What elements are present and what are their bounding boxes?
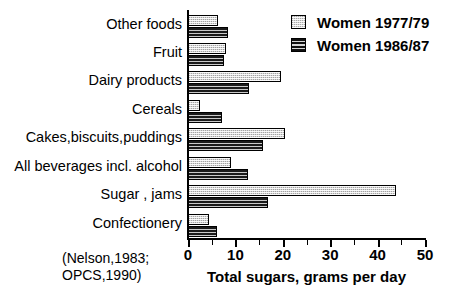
bar-women-1977-79 xyxy=(188,157,231,168)
x-tick-label-0: 0 xyxy=(184,246,192,263)
legend: Women 1977/79 Women 1986/87 xyxy=(291,12,451,58)
bar-women-1986-87 xyxy=(188,55,224,66)
bar-women-1986-87 xyxy=(188,197,268,208)
category-label-all-beverages: All beverages incl. alcohol xyxy=(5,158,187,174)
x-tick-label-40: 40 xyxy=(369,246,386,263)
light-dotted-swatch xyxy=(291,15,306,29)
bar-women-1986-87 xyxy=(188,83,249,94)
source-note: (Nelson,1983; OPCS,1990) xyxy=(62,250,149,284)
bar-women-1986-87 xyxy=(188,140,263,151)
category-label-dairy-products: Dairy products xyxy=(5,72,187,88)
category-axis-labels: Other foods Fruit Dairy products Cereals… xyxy=(0,0,187,240)
bar-women-1986-87 xyxy=(188,169,248,180)
bar-women-1977-79 xyxy=(188,128,285,139)
category-label-other-foods: Other foods xyxy=(5,16,187,32)
x-minor-tick-35 xyxy=(354,240,355,245)
bar-women-1986-87 xyxy=(188,112,222,123)
bar-group-cereals xyxy=(188,100,425,123)
legend-label-women-1986-87: Women 1986/87 xyxy=(317,37,429,54)
legend-item-women-1977-79: Women 1977/79 xyxy=(291,12,451,32)
bar-women-1986-87 xyxy=(188,27,228,38)
dark-hatched-swatch xyxy=(291,38,306,52)
x-minor-tick-5 xyxy=(212,240,213,245)
bar-women-1977-79 xyxy=(188,15,218,26)
bar-women-1977-79 xyxy=(188,214,209,225)
source-note-line-1: (Nelson,1983; xyxy=(62,250,149,267)
bar-group-sugar-jams xyxy=(188,185,425,208)
x-minor-tick-25 xyxy=(307,240,308,245)
bar-women-1977-79 xyxy=(188,100,200,111)
category-label-cakes-biscuits-puddings: Cakes,biscuits,puddings xyxy=(5,129,187,145)
x-minor-tick-45 xyxy=(401,240,402,245)
bar-group-confectionery xyxy=(188,214,425,237)
bar-women-1977-79 xyxy=(188,43,226,54)
legend-label-women-1977-79: Women 1977/79 xyxy=(317,14,429,31)
category-label-sugar-jams: Sugar , jams xyxy=(5,186,187,202)
bar-women-1986-87 xyxy=(188,226,217,237)
category-label-fruit: Fruit xyxy=(5,44,187,60)
bar-group-all-beverages-incl-alcohol xyxy=(188,157,425,180)
category-label-cereals: Cereals xyxy=(5,101,187,117)
bar-group-dairy-products xyxy=(188,71,425,94)
x-minor-tick-15 xyxy=(259,240,260,245)
legend-item-women-1986-87: Women 1986/87 xyxy=(291,35,451,55)
x-tick-label-10: 10 xyxy=(227,246,244,263)
bar-chart: Other foods Fruit Dairy products Cereals… xyxy=(0,0,451,296)
bar-group-cakes-biscuits-puddings xyxy=(188,128,425,151)
source-note-line-2: OPCS,1990) xyxy=(62,267,149,284)
x-tick-label-50: 50 xyxy=(417,246,434,263)
x-axis-title: Total sugars, grams per day xyxy=(188,268,425,285)
x-tick-label-20: 20 xyxy=(274,246,291,263)
bar-women-1977-79 xyxy=(188,185,396,196)
x-tick-label-30: 30 xyxy=(322,246,339,263)
bar-women-1977-79 xyxy=(188,71,281,82)
category-label-confectionery: Confectionery xyxy=(5,215,187,231)
